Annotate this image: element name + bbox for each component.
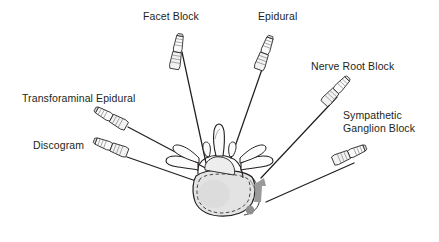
right-articular-process xyxy=(229,142,236,157)
nerve-root-block-hub xyxy=(320,74,352,107)
transforaminal-epidural-hub xyxy=(93,104,129,131)
label-nerve-root-block: Nerve Root Block xyxy=(311,60,394,73)
spinous-process xyxy=(214,124,225,156)
epidural-hub xyxy=(254,34,276,71)
sympathetic-ganglion-block-shaft xyxy=(266,163,354,202)
gray-target-dot xyxy=(246,205,254,214)
left-body-target-shade xyxy=(198,180,230,208)
label-sympathetic-ganglion-block-line2: Ganglion Block xyxy=(343,122,415,135)
figure-canvas: Facet Block Epidural Nerve Root Block Sy… xyxy=(0,0,439,242)
facet-block-hub xyxy=(169,33,186,70)
discogram-hub xyxy=(92,135,129,158)
label-sympathetic-ganglion-block-line1: Sympathetic xyxy=(343,109,402,122)
label-discogram: Discogram xyxy=(33,139,84,152)
nerve-root-block-shaft xyxy=(261,97,337,178)
label-transforaminal-epidural: Transforaminal Epidural xyxy=(22,92,135,105)
sympathetic-ganglion-block-hub xyxy=(331,142,368,166)
label-facet-block: Facet Block xyxy=(143,10,199,23)
label-epidural: Epidural xyxy=(258,10,297,23)
